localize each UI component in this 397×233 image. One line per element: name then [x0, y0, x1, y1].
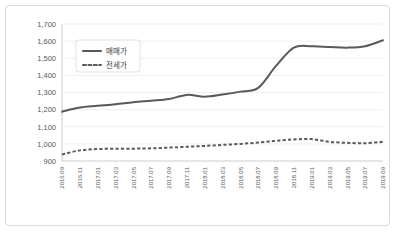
x-axis-tick-label: 2019.07: [362, 166, 368, 188]
x-axis-tick-label: 2018.11: [291, 166, 297, 188]
y-axis-tick-label: 1,700: [37, 20, 56, 29]
y-axis-tick-label: 1,500: [37, 54, 56, 63]
x-axis-tick-label: 2016.09: [59, 166, 65, 188]
x-axis-tick-label: 2017.11: [184, 166, 190, 188]
y-axis-tick-label: 1,200: [37, 105, 56, 114]
x-axis-tick-label: 2019.09: [380, 166, 386, 188]
y-axis-tick-label: 900: [43, 157, 56, 166]
x-axis-tick-label: 2018.01: [202, 166, 208, 188]
y-axis-tick-label: 1,400: [37, 71, 56, 80]
x-axis-tick-label: 2017.05: [131, 166, 137, 188]
x-axis-tick-label: 2018.07: [255, 166, 261, 188]
x-axis-tick-label: 2019.03: [327, 166, 333, 188]
x-axis-tick-label: 2017.03: [113, 166, 119, 188]
y-axis-tick-label: 1,600: [37, 37, 56, 46]
line-chart: 1,7001,6001,5001,4001,3001,2001,1001,000…: [6, 6, 391, 227]
x-axis-tick-label: 2017.01: [95, 166, 101, 188]
x-axis-tick-label: 2017.09: [166, 166, 172, 188]
legend-label: 전세가: [106, 60, 127, 70]
x-axis-tick-labels: 2016.092016.112017.012017.032017.052017.…: [59, 166, 386, 188]
chart-legend: 매매가전세가: [76, 40, 140, 72]
y-axis-tick-labels: 1,7001,6001,5001,4001,3001,2001,1001,000…: [37, 20, 56, 166]
x-axis-tick-label: 2018.05: [238, 166, 244, 188]
x-axis-tick-label: 2017.07: [148, 166, 154, 188]
x-axis-tick-label: 2016.11: [77, 166, 83, 188]
y-axis-tick-label: 1,300: [37, 88, 56, 97]
legend-label: 매매가: [106, 47, 127, 56]
x-axis-tick-label: 2019.05: [345, 166, 351, 188]
chart-frame: 1,7001,6001,5001,4001,3001,2001,1001,000…: [5, 5, 390, 226]
y-axis-tick-label: 1,100: [37, 123, 56, 132]
x-axis-tick-label: 2019.01: [309, 166, 315, 188]
series-line-jeonse: [62, 139, 383, 155]
x-axis-tick-label: 2018.09: [273, 166, 279, 188]
x-axis-tick-label: 2018.03: [220, 166, 226, 188]
y-axis-tick-label: 1,000: [37, 140, 56, 149]
